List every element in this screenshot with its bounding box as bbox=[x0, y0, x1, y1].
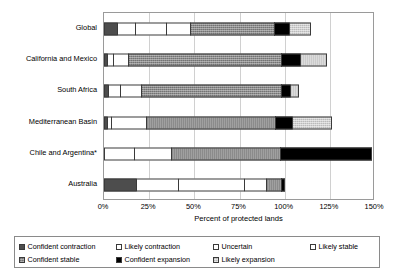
legend-swatch-uncertain-icon bbox=[213, 244, 219, 250]
category-label: Chile and Argentina* bbox=[30, 149, 97, 157]
bar-segment-uncertain[interactable] bbox=[134, 147, 172, 160]
x-tick-label: 75% bbox=[231, 202, 246, 212]
legend-item-likely-contraction[interactable]: Likely contraction bbox=[116, 243, 180, 251]
bar-segment-confident-stable[interactable] bbox=[128, 53, 282, 66]
category-axis-labels: GlobalCalifornia and MexicoSouth AfricaM… bbox=[0, 12, 100, 200]
bar-row bbox=[104, 76, 375, 107]
legend-label: Likely contraction bbox=[125, 243, 181, 251]
legend-item-likely-expansion[interactable]: Likely expansion bbox=[213, 256, 275, 264]
x-tick-label: 125% bbox=[319, 202, 338, 212]
bar-segment-likely-contraction[interactable] bbox=[117, 22, 135, 35]
bar-segment-likely-expansion[interactable] bbox=[290, 85, 299, 98]
bar-segment-likely-contraction[interactable] bbox=[104, 147, 135, 160]
bar-segment-likely-expansion[interactable] bbox=[289, 22, 311, 35]
x-axis-tick-labels: 0%25%50%75%100%125%150% bbox=[103, 202, 374, 214]
bar-row bbox=[104, 170, 375, 201]
bar-segment-confident-contraction[interactable] bbox=[104, 179, 137, 192]
stacked-bar[interactable] bbox=[104, 147, 372, 160]
legend-swatch-likely-stable-icon bbox=[310, 244, 316, 250]
bar-segment-confident-stable[interactable] bbox=[141, 85, 282, 98]
legend-label: Confident stable bbox=[28, 256, 80, 264]
category-label: Global bbox=[76, 24, 97, 32]
bar-segment-confident-stable[interactable] bbox=[190, 22, 275, 35]
bar-segment-confident-stable[interactable] bbox=[171, 147, 281, 160]
legend-item-likely-stable[interactable]: Likely stable bbox=[310, 243, 358, 251]
category-label: Australia bbox=[68, 180, 97, 188]
legend-swatch-likely-expansion-icon bbox=[213, 257, 219, 263]
bar-segment-uncertain[interactable] bbox=[135, 22, 168, 35]
legend-label: Likely stable bbox=[319, 243, 359, 251]
bar-segment-uncertain[interactable] bbox=[111, 116, 147, 129]
bar-segment-confident-expansion[interactable] bbox=[281, 179, 285, 192]
legend-label: Confident contraction bbox=[28, 243, 96, 251]
bar-segment-likely-contraction[interactable] bbox=[136, 179, 179, 192]
bar-segment-likely-expansion[interactable] bbox=[292, 116, 332, 129]
bar-segment-likely-stable[interactable] bbox=[244, 179, 267, 192]
bar-row bbox=[104, 138, 375, 169]
bar-segment-likely-stable[interactable] bbox=[166, 22, 191, 35]
x-axis-title: Percent of protected lands bbox=[103, 214, 374, 223]
x-tick-label: 100% bbox=[274, 202, 293, 212]
legend-swatch-confident-contraction-icon bbox=[19, 244, 25, 250]
bar-segment-confident-expansion[interactable] bbox=[275, 116, 293, 129]
legend-row: Confident contractionLikely contractionU… bbox=[19, 240, 379, 253]
bar-segment-confident-expansion[interactable] bbox=[281, 53, 301, 66]
legend-label: Likely expansion bbox=[222, 256, 275, 264]
category-label: California and Mexico bbox=[26, 55, 97, 63]
chart-legend: Confident contractionLikely contractionU… bbox=[14, 236, 380, 268]
bar-segment-likely-expansion[interactable] bbox=[300, 53, 327, 66]
legend-item-confident-contraction[interactable]: Confident contraction bbox=[19, 243, 95, 251]
bar-segment-confident-expansion[interactable] bbox=[280, 147, 372, 160]
stacked-bar[interactable] bbox=[104, 85, 299, 98]
stacked-bar[interactable] bbox=[104, 53, 327, 66]
x-tick-label: 150% bbox=[365, 202, 384, 212]
bar-segment-confident-stable[interactable] bbox=[266, 179, 282, 192]
bar-segment-uncertain[interactable] bbox=[120, 85, 142, 98]
bar-segment-confident-stable[interactable] bbox=[146, 116, 276, 129]
legend-swatch-likely-contraction-icon bbox=[116, 244, 122, 250]
plot-area bbox=[103, 12, 374, 200]
bar-segment-uncertain[interactable] bbox=[178, 179, 245, 192]
stacked-bar-chart: GlobalCalifornia and MexicoSouth AfricaM… bbox=[0, 0, 394, 278]
bar-segment-confident-contraction[interactable] bbox=[104, 22, 118, 35]
legend-item-confident-expansion[interactable]: Confident expansion bbox=[116, 256, 190, 264]
plot-wrapper: GlobalCalifornia and MexicoSouth AfricaM… bbox=[0, 0, 394, 232]
legend-label: Uncertain bbox=[222, 243, 253, 251]
legend-label: Confident expansion bbox=[125, 256, 191, 264]
stacked-bar[interactable] bbox=[104, 116, 332, 129]
legend-swatch-confident-expansion-icon bbox=[116, 257, 122, 263]
bar-row bbox=[104, 13, 375, 44]
bar-segment-uncertain[interactable] bbox=[113, 53, 129, 66]
legend-swatch-confident-stable-icon bbox=[19, 257, 25, 263]
x-tick-label: 0% bbox=[98, 202, 109, 212]
x-tick-label: 50% bbox=[186, 202, 201, 212]
category-label: South Africa bbox=[57, 86, 97, 94]
category-label: Mediterranean Basin bbox=[29, 118, 97, 126]
stacked-bar[interactable] bbox=[104, 22, 311, 35]
x-tick-label: 25% bbox=[141, 202, 156, 212]
legend-row: Confident stableConfident expansionLikel… bbox=[19, 253, 379, 266]
legend-item-uncertain[interactable]: Uncertain bbox=[213, 243, 252, 251]
bar-segment-confident-expansion[interactable] bbox=[274, 22, 290, 35]
stacked-bar[interactable] bbox=[104, 179, 285, 192]
legend-item-confident-stable[interactable]: Confident stable bbox=[19, 256, 79, 264]
bar-row bbox=[104, 107, 375, 138]
bar-row bbox=[104, 44, 375, 75]
